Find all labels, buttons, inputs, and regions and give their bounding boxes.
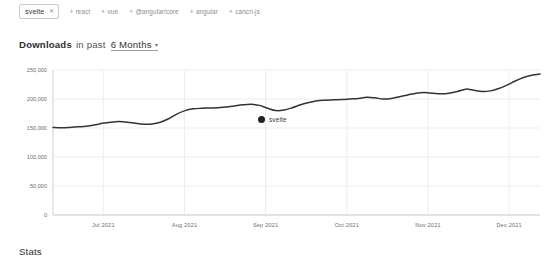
- y-axis-tick-label: 50,000: [30, 183, 47, 189]
- legend-marker-icon: [258, 116, 265, 123]
- stats-heading: Stats: [0, 246, 551, 257]
- downloads-title: Downloads: [19, 39, 72, 50]
- add-package-label: vue: [108, 8, 119, 15]
- y-axis-tick-label: 200,000: [27, 96, 47, 102]
- downloads-subtitle: in past: [76, 39, 106, 50]
- add-package-label: angular: [196, 8, 218, 15]
- legend-label: svelte: [269, 116, 287, 123]
- plus-icon: +: [190, 8, 194, 15]
- chart-x-axis: Jul 2021Aug 2021Sep 2021Oct 2021Nov 2021…: [53, 215, 540, 228]
- chart-legend[interactable]: svelte: [258, 116, 287, 123]
- chart-gridlines: [53, 70, 540, 215]
- add-package-label: cancri-js: [235, 8, 260, 15]
- add-package-angular-core[interactable]: + @angular/core: [129, 8, 179, 15]
- chart-canvas: 050,000100,000150,000200,000250,000 Jul …: [0, 58, 551, 243]
- add-package-label: @angular/core: [135, 8, 178, 15]
- x-axis-tick-label: Oct 2021: [335, 222, 359, 228]
- package-selector-bar: svelte ✕ + react + vue + @angular/core +…: [0, 0, 551, 19]
- y-axis-tick-label: 250,000: [27, 67, 47, 73]
- close-icon[interactable]: ✕: [49, 8, 54, 14]
- add-package-react[interactable]: + react: [69, 8, 90, 15]
- add-package-angular[interactable]: + angular: [190, 8, 218, 15]
- add-package-label: react: [76, 8, 91, 15]
- plus-icon: +: [101, 8, 105, 15]
- x-axis-tick-label: Nov 2021: [415, 222, 441, 228]
- plus-icon: +: [129, 8, 133, 15]
- add-package-cancri-js[interactable]: + cancri-js: [229, 8, 260, 15]
- x-axis-tick-label: Dec 2021: [496, 222, 522, 228]
- x-axis-tick-label: Jul 2021: [92, 222, 115, 228]
- plus-icon: +: [229, 8, 233, 15]
- chart-line-svelte: [53, 74, 540, 128]
- y-axis-tick-label: 0: [44, 212, 47, 218]
- downloads-heading: Downloads in past 6 Months▾: [0, 39, 551, 51]
- x-axis-tick-label: Sep 2021: [253, 222, 279, 228]
- range-dropdown-value: 6 Months: [111, 39, 152, 50]
- y-axis-tick-label: 100,000: [27, 154, 47, 160]
- downloads-chart: 050,000100,000150,000200,000250,000 Jul …: [0, 58, 551, 243]
- package-chip-label: svelte: [25, 6, 44, 17]
- package-chip-selected[interactable]: svelte ✕: [19, 4, 59, 19]
- x-axis-tick-label: Aug 2021: [172, 222, 198, 228]
- plus-icon: +: [69, 8, 73, 15]
- add-package-vue[interactable]: + vue: [101, 8, 118, 15]
- range-dropdown[interactable]: 6 Months▾: [111, 39, 158, 51]
- chart-y-axis: 050,000100,000150,000200,000250,000: [27, 67, 53, 218]
- chevron-down-icon: ▾: [155, 42, 158, 48]
- y-axis-tick-label: 150,000: [27, 125, 47, 131]
